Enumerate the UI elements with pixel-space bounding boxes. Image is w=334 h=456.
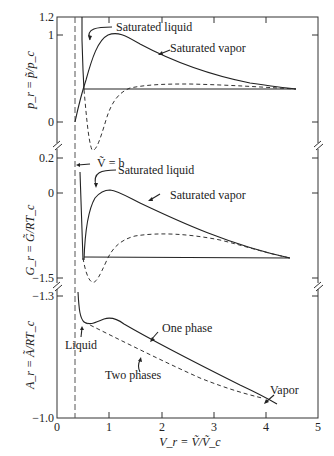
label-saturated-liquid-p: Saturated liquid xyxy=(116,20,192,34)
label-vapor: Vapor xyxy=(270,383,299,397)
y-label-helmholtz: A_r = Ã/RT_c xyxy=(23,320,37,390)
svg-text:1: 1 xyxy=(106,420,112,434)
svg-text:−1.3: −1.3 xyxy=(32,289,54,303)
y-label-pressure: p_r = p̃/p_c xyxy=(23,51,37,110)
svg-text:1.2: 1.2 xyxy=(39,10,54,24)
label-one-phase: One phase xyxy=(162,321,212,335)
gibbs-panel-curves xyxy=(76,163,290,282)
svg-text:0: 0 xyxy=(48,186,54,200)
label-saturated-vapor-g: Saturated vapor xyxy=(170,188,246,202)
label-liquid: Liquid xyxy=(65,338,97,352)
phase-diagram: 0 1 2 3 4 5 1.2 1 0 0.2 0 −1.5 −1.3 −1.0… xyxy=(0,0,334,456)
label-two-phases: Two phases xyxy=(105,368,161,382)
svg-text:0: 0 xyxy=(54,420,60,434)
x-axis-title: V_r = Ṽ/Ṽ_c xyxy=(159,435,221,449)
svg-text:4: 4 xyxy=(263,420,269,434)
svg-text:0.2: 0.2 xyxy=(39,151,54,165)
pressure-panel-curves xyxy=(75,17,296,150)
svg-text:2: 2 xyxy=(159,420,165,434)
label-saturated-liquid-g: Saturated liquid xyxy=(118,163,194,177)
helmholtz-panel-curves xyxy=(78,292,277,404)
svg-text:3: 3 xyxy=(211,420,217,434)
x-tick-labels: 0 1 2 3 4 5 xyxy=(54,420,321,434)
svg-text:1: 1 xyxy=(48,28,54,42)
svg-text:5: 5 xyxy=(315,420,321,434)
svg-text:−1.0: −1.0 xyxy=(32,411,54,425)
svg-text:0: 0 xyxy=(48,115,54,129)
y-label-gibbs: G_r = G̃/RT_c xyxy=(23,204,37,275)
label-saturated-vapor-p: Saturated vapor xyxy=(170,41,246,55)
